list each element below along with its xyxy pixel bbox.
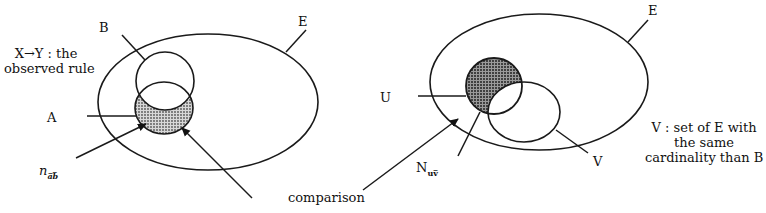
v-caption-line1: V : set of E with [645,120,763,135]
left-venn-diagram [76,30,318,198]
n-uv-subscript: uv̅ [427,168,437,178]
leader-line-n-uv [458,112,480,156]
shaded-region-u-not-v [460,55,560,142]
rule-caption-line2: observed rule [4,61,88,76]
label-universe-e-right: E [648,3,658,18]
v-caption-line3: cardinality than B [645,150,763,165]
n-uv-main: N [416,160,427,175]
diagram-canvas [0,0,766,213]
label-set-u: U [380,90,391,105]
rule-caption: X→Y : the observed rule [4,46,88,76]
universe-e-left [98,34,318,170]
right-venn-diagram [363,14,648,190]
rule-caption-line1: X→Y : the [4,46,88,61]
label-comparison: comparison [288,190,365,205]
label-set-v: V [593,154,602,169]
n-ab-subscript: a̅b̅ [47,171,58,181]
v-caption-line2: the same [645,135,763,150]
arrow-comparison-right [363,119,458,190]
v-caption: V : set of E with the same cardinality t… [645,120,763,165]
label-n-ab: na̅b̅ [39,163,58,184]
arrow-comparison-left [182,128,252,198]
leader-line-e-right [628,20,648,42]
label-n-uv: Nuv̅ [416,160,438,181]
universe-e-right [430,14,648,150]
label-set-b: B [99,20,109,35]
label-set-a: A [47,110,56,125]
label-universe-e-left: E [298,14,308,29]
leader-line-e-left [286,30,306,52]
